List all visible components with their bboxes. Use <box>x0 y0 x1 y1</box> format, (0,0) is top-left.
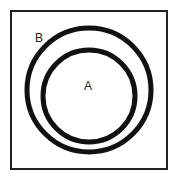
venn-diagram: B A <box>0 0 178 180</box>
set-a-circle <box>43 50 135 142</box>
set-b-label: B <box>35 32 43 44</box>
set-a-label: A <box>84 80 92 92</box>
